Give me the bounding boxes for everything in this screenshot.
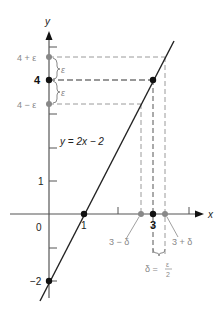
point-4-minus-eps [46, 101, 52, 107]
point-4 [46, 77, 52, 83]
pointer-3-plus-delta [167, 217, 178, 237]
x-label-1: 1 [81, 220, 87, 231]
eps-label-upper: ε [61, 65, 66, 75]
delta-eq-eps-num: ε [166, 261, 169, 268]
point-3-plus-delta [162, 211, 168, 217]
y-label-4-minus-eps: 4 − ε [17, 100, 36, 110]
eps-brace-upper [53, 58, 60, 79]
axes [10, 31, 204, 298]
delta-eq-two-den: 2 [166, 271, 170, 278]
point-4-plus-eps [46, 54, 52, 60]
delta-eq-label: δ = [145, 264, 158, 274]
x-label-3: 3 [150, 219, 156, 231]
guide-lines [49, 57, 165, 254]
x-axis-arrow-icon [195, 211, 204, 218]
point-x-3 [150, 211, 156, 217]
point-3-minus-delta [138, 211, 144, 217]
delta-brace [153, 249, 165, 256]
equation-label: y = 2x − 2 [59, 136, 104, 147]
y-axis-label: y [44, 16, 51, 27]
eps-label-lower: ε [61, 88, 66, 98]
y-label-4-plus-eps: 4 + ε [17, 53, 36, 63]
y-label-minus-2: −2 [30, 276, 42, 287]
y-label-4: 4 [34, 74, 41, 86]
point-y-minus-2 [46, 278, 52, 284]
pointer-3-minus-delta [126, 217, 139, 239]
point-3-4 [150, 77, 156, 83]
x-label-3-plus-delta: 3 + δ [172, 237, 192, 247]
y-label-1: 1 [38, 176, 44, 187]
eps-brace-lower [53, 81, 60, 103]
origin-label: 0 [36, 222, 42, 233]
y-axis-arrow-icon [46, 31, 53, 40]
x-label-3-minus-delta: 3 − δ [109, 237, 129, 247]
x-axis-label: x [207, 209, 214, 220]
point-x-1 [81, 211, 87, 217]
epsilon-delta-diagram: y x 0 4 + ε 4 4 − ε 1 −2 ε ε y = 2x − 2 … [0, 0, 221, 315]
